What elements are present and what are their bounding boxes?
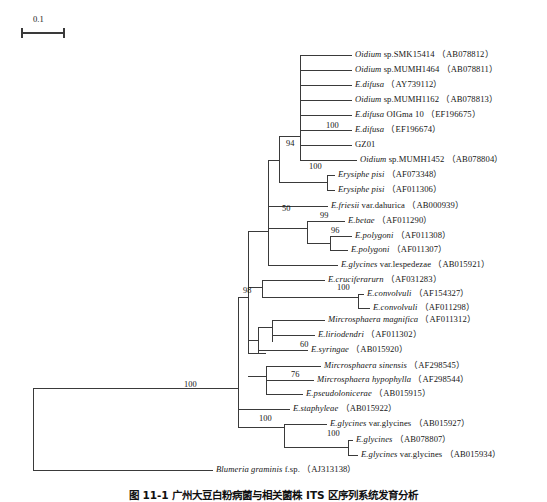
taxon-accession: （AF011306） xyxy=(384,184,442,194)
scale-bar xyxy=(22,28,64,38)
taxon-label: E.convolvuli （AF154327） xyxy=(367,288,469,298)
bootstrap-value: 50 xyxy=(282,204,290,213)
taxon-species-name: E.friesii xyxy=(331,200,359,210)
taxon-accession: （AB078813） xyxy=(439,94,498,104)
taxon-strain-name: sp.MUMH1162 xyxy=(381,94,439,104)
taxon-accession: （AF011307） xyxy=(389,244,447,254)
taxon-accession: （AF073348） xyxy=(384,169,442,179)
taxon-label: Mircrosphaera magnifica （AF011312） xyxy=(328,314,476,324)
bootstrap-value: 94 xyxy=(286,139,294,148)
taxon-species-name: E.polygoni xyxy=(355,230,393,240)
taxon-species-name: Oidium xyxy=(360,154,386,164)
taxon-species-name: E.pseudolonicerae xyxy=(306,388,372,398)
taxon-label: E.convolvuli （AF011298） xyxy=(373,302,475,312)
taxon-label: E.difusa （AY739112） xyxy=(355,79,443,89)
taxon-accession: （AF011302） xyxy=(364,329,422,339)
bootstrap-value: 100 xyxy=(326,121,339,130)
taxon-accession: （AB015921） xyxy=(431,259,490,269)
taxon-accession: （AF011308） xyxy=(393,230,451,240)
taxon-label: Erysiphe pisi （AF073348） xyxy=(338,169,442,179)
bootstrap-value: 100 xyxy=(337,283,350,292)
taxon-strain-name: var.glycines xyxy=(398,449,443,459)
taxon-label: Oidium sp.MUMH1452 （AB078804） xyxy=(360,154,503,164)
taxon-label: E.difusa OIGma 10 （EF196675） xyxy=(355,109,481,119)
taxon-species-name: E.difusa xyxy=(355,124,384,134)
taxon-species-name: Erysiphe pisi xyxy=(338,184,384,194)
taxon-species-name: E.liriodendri xyxy=(318,329,364,339)
taxon-label: E.difusa （EF196674） xyxy=(355,124,441,134)
bootstrap-value: 76 xyxy=(291,370,299,379)
taxon-species-name: E.syringae xyxy=(311,344,349,354)
taxon-accession: （AB015915） xyxy=(372,388,431,398)
bootstrap-value: 100 xyxy=(184,380,197,389)
taxon-accession: （AF298545） xyxy=(407,360,465,370)
taxon-strain-name: sp.MUMH1464 xyxy=(381,64,439,74)
taxon-species-name: E.convolvuli xyxy=(373,302,417,312)
taxon-strain-name: var.dahurica xyxy=(359,200,405,210)
taxon-label: E.glycines var.lespedezae （AB015921） xyxy=(341,259,490,269)
taxon-strain-name: sp.SMK15414 xyxy=(381,49,434,59)
taxon-accession: （AB078807） xyxy=(393,434,452,444)
taxon-label: Oidium sp.MUMH1464 （AB078811） xyxy=(355,64,498,74)
taxon-label: Oidium sp.SMK15414 （AB078812） xyxy=(355,49,494,59)
taxon-label: E.glycines var.glycines （AB015934） xyxy=(361,449,501,459)
taxon-accession: （AF011290） xyxy=(375,215,433,225)
taxon-species-name: E.polygoni xyxy=(351,244,389,254)
taxon-species-name: Blumeria graminis xyxy=(216,464,282,474)
taxon-strain-name: OIGma 10 xyxy=(384,109,424,119)
bootstrap-value: 96 xyxy=(331,226,339,235)
taxon-label: E.betae （AF011290） xyxy=(348,215,432,225)
taxon-label: Erysiphe pisi （AF011306） xyxy=(338,184,442,194)
taxon-label: Blumeria graminis f.sp. （AJ313138） xyxy=(216,464,357,474)
taxon-accession: （AJ313138） xyxy=(300,464,357,474)
taxon-accession: （EF196674） xyxy=(384,124,441,134)
bootstrap-value: 99 xyxy=(320,211,328,220)
taxon-strain-name: sp.MUMH1452 xyxy=(386,154,444,164)
taxon-species-name: Oidium xyxy=(355,49,381,59)
taxon-accession: （AF031283） xyxy=(384,274,442,284)
taxon-species-name: E.convolvuli xyxy=(367,288,411,298)
taxon-label: Mircrosphaera hypophylla （AF298544） xyxy=(317,374,469,384)
taxon-strain-name: var.glycines xyxy=(367,418,412,428)
bootstrap-value: 100 xyxy=(259,414,272,423)
taxon-species-name: Erysiphe pisi xyxy=(338,169,384,179)
taxon-strain-name: var.lespedezae xyxy=(378,259,432,269)
bootstrap-value: 100 xyxy=(309,162,322,171)
taxon-label: E.polygoni （AF011308） xyxy=(355,230,451,240)
taxon-accession: （AB015920） xyxy=(349,344,408,354)
taxon-species-name: E.staphyleae xyxy=(293,403,338,413)
taxon-accession: （AF011298） xyxy=(417,302,475,312)
taxon-accession: （AB015922） xyxy=(338,403,397,413)
taxon-accession: （AB015934） xyxy=(442,449,501,459)
taxon-species-name: Mircrosphaera sinensis xyxy=(324,360,407,370)
taxon-accession: （AB078812） xyxy=(435,49,494,59)
taxon-species-name: Oidium xyxy=(355,94,381,104)
taxon-label: E.glycines （AB078807） xyxy=(356,434,452,444)
taxon-accession: （AY739112） xyxy=(384,79,442,89)
taxon-accession: （AB078804） xyxy=(444,154,503,164)
taxon-label: E.friesii var.dahurica （AB000939） xyxy=(331,200,464,210)
taxon-species-name: E.glycines xyxy=(341,259,378,269)
taxon-species-name: Oidium xyxy=(355,64,381,74)
taxon-accession: （AF011312） xyxy=(418,314,476,324)
taxon-label: E.liriodendri （AF011302） xyxy=(318,329,422,339)
taxon-accession: （EF196675） xyxy=(424,109,481,119)
taxon-label: E.polygoni （AF011307） xyxy=(351,244,447,254)
taxon-accession: （AF154327） xyxy=(411,288,469,298)
taxon-species-name: E.glycines xyxy=(361,449,398,459)
taxon-species-name: Mircrosphaera magnifica xyxy=(328,314,418,324)
taxon-species-name: E.difusa xyxy=(355,79,384,89)
bootstrap-value: 60 xyxy=(300,340,308,349)
taxon-strain-name: f.sp. xyxy=(282,464,300,474)
scale-bar-label: 0.1 xyxy=(33,14,44,24)
taxon-species-name: E.difusa xyxy=(355,109,384,119)
taxon-accession: （AB078811） xyxy=(439,64,498,74)
taxon-label: Oidium sp.MUMH1162 （AB078813） xyxy=(355,94,498,104)
taxon-species-name: Mircrosphaera hypophylla xyxy=(317,374,411,384)
taxon-accession: （AF298544） xyxy=(411,374,469,384)
taxon-label: E.syringae （AB015920） xyxy=(311,344,408,354)
taxon-strain-name: GZ01 xyxy=(355,139,375,149)
taxon-species-name: E.glycines xyxy=(330,418,367,428)
taxon-species-name: E.betae xyxy=(348,215,375,225)
